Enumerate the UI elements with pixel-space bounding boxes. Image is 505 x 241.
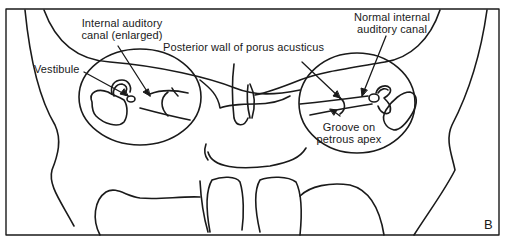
label-line: Groove on [310, 121, 388, 133]
label-normal-internal-auditory-canal: Normal internal auditory canal [336, 11, 448, 35]
label-line: Normal internal [336, 11, 448, 23]
label-line: Internal auditory [72, 17, 172, 29]
label-vestibule: Vestibule [34, 63, 80, 75]
left-skull-contour [25, 10, 74, 226]
label-line: canal (enlarged) [72, 29, 172, 41]
left-petrous-circle [79, 49, 201, 145]
label-line: auditory canal [336, 23, 448, 35]
skull-base-diagram: Internal auditory canal (enlarged) Vesti… [0, 0, 505, 241]
label-posterior-wall-porus-acusticus: Posterior wall of porus acusticus [163, 41, 324, 53]
label-line: petrous apex [310, 133, 388, 145]
label-groove-on-petrous-apex: Groove on petrous apex [310, 121, 388, 145]
label-internal-auditory-canal-enlarged: Internal auditory canal (enlarged) [72, 17, 172, 41]
right-skull-contour [414, 10, 487, 235]
panel-letter: B [484, 217, 493, 232]
